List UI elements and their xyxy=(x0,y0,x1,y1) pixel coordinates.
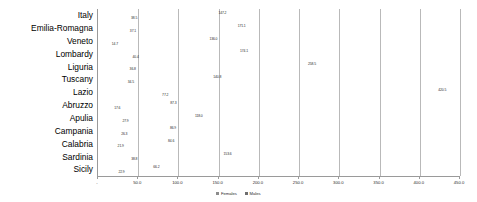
category-label-lazio: Lazio xyxy=(73,88,93,96)
category-label-liguria: Liguria xyxy=(68,63,93,71)
bar-females: 118.0 xyxy=(98,113,193,118)
bar-value-label-females: 171.1 xyxy=(238,24,246,28)
x-tick-mark xyxy=(177,176,178,179)
bar-value-label-males: 14.7 xyxy=(112,42,118,46)
bar-value-label-females: 118.0 xyxy=(195,114,203,118)
x-tick-mark xyxy=(419,176,420,179)
x-tick-label: 150.0 xyxy=(212,180,222,185)
category-label-abruzzo: Abruzzo xyxy=(62,101,93,109)
bar-value-label-females: 86.9 xyxy=(170,126,176,130)
x-tick-label: - xyxy=(96,180,97,185)
bar-females: 153.6 xyxy=(98,152,222,157)
bar-group: 66.222.9 xyxy=(98,163,459,176)
bar-group: 136.014.7 xyxy=(98,35,459,48)
bar-value-label-females: 153.6 xyxy=(224,152,232,156)
bar-males: 36.8 xyxy=(98,67,128,72)
bar-males: 38.5 xyxy=(98,16,129,21)
x-tick-mark xyxy=(218,176,219,179)
bar-value-label-females: 87.3 xyxy=(170,101,176,105)
bar-group: 118.027.9 xyxy=(98,112,459,125)
x-axis-line xyxy=(97,176,459,177)
x-tick-label: 400.0 xyxy=(414,180,424,185)
bar-females: 86.9 xyxy=(98,126,168,131)
legend-item-females[interactable]: Females xyxy=(216,191,237,196)
x-tick-mark xyxy=(137,176,138,179)
category-label-sardinia: Sardinia xyxy=(62,153,93,161)
bar-value-label-males: 27.9 xyxy=(122,119,128,123)
bar-males: 26.3 xyxy=(98,131,119,136)
bar-females: 174.1 xyxy=(98,49,238,54)
gridline xyxy=(460,9,461,176)
bar-females: 258.5 xyxy=(98,62,306,67)
category-label-tuscany: Tuscany xyxy=(62,75,93,83)
plot-area: 147.238.5171.137.1136.014.7174.140.4258.… xyxy=(97,9,459,176)
bar-value-label-females: 420.5 xyxy=(438,88,446,92)
bar-value-label-males: 17.6 xyxy=(114,106,120,110)
x-tick-label: 200.0 xyxy=(253,180,263,185)
chart-legend: FemalesMales xyxy=(0,191,477,196)
x-tick-label: 100.0 xyxy=(172,180,182,185)
bar-value-label-females: 84.6 xyxy=(168,139,174,143)
bar-value-label-females: 147.2 xyxy=(218,11,226,15)
bar-value-label-females: 66.2 xyxy=(153,165,159,169)
bar-males: 34.5 xyxy=(98,80,126,85)
bar-value-label-males: 22.9 xyxy=(118,170,124,174)
bar-group: 140.834.5 xyxy=(98,73,459,86)
bar-group: 420.577.2 xyxy=(98,86,459,99)
category-label-apulia: Apulia xyxy=(70,114,93,122)
x-tick-mark xyxy=(459,176,460,179)
category-label-sicily: Sicily xyxy=(73,165,93,173)
bar-group: 258.536.8 xyxy=(98,60,459,73)
bar-value-label-males: 77.2 xyxy=(162,93,168,97)
bar-value-label-males: 37.1 xyxy=(130,29,136,33)
category-label-lombardy: Lombardy xyxy=(56,50,93,58)
bar-males: 38.8 xyxy=(98,157,129,162)
bar-females: 84.6 xyxy=(98,139,166,144)
bar-females: 171.1 xyxy=(98,23,236,28)
bar-value-label-males: 38.8 xyxy=(131,157,137,161)
bar-value-label-males: 34.5 xyxy=(128,80,134,84)
category-label-veneto: Veneto xyxy=(67,37,93,45)
bar-group: 147.238.5 xyxy=(98,9,459,22)
bar-males: 27.9 xyxy=(98,118,120,123)
bar-value-label-females: 174.1 xyxy=(240,49,248,53)
x-tick-mark xyxy=(258,176,259,179)
x-tick-label: 300.0 xyxy=(333,180,343,185)
x-tick-mark xyxy=(298,176,299,179)
bar-females: 420.5 xyxy=(98,88,436,93)
bar-females: 136.0 xyxy=(98,36,207,41)
x-tick-mark xyxy=(338,176,339,179)
bar-group: 171.137.1 xyxy=(98,22,459,35)
bar-value-label-males: 26.3 xyxy=(121,132,127,136)
category-label-emilia-romagna: Emilia-Romagna xyxy=(31,24,93,32)
grouped-bar-chart: ItalyEmilia-RomagnaVenetoLombardyLiguria… xyxy=(0,0,477,202)
bar-females: 66.2 xyxy=(98,165,151,170)
bar-males: 14.7 xyxy=(98,41,110,46)
bar-value-label-males: 40.4 xyxy=(132,55,138,59)
bar-value-label-females: 140.8 xyxy=(213,75,221,79)
bar-value-label-males: 21.9 xyxy=(118,144,124,148)
bar-group: 87.317.6 xyxy=(98,99,459,112)
bar-group: 174.140.4 xyxy=(98,48,459,61)
y-axis-category-labels: ItalyEmilia-RomagnaVenetoLombardyLiguria… xyxy=(0,9,93,176)
legend-swatch-icon xyxy=(216,192,219,195)
bar-group: 86.926.3 xyxy=(98,125,459,138)
bar-males: 77.2 xyxy=(98,93,160,98)
bar-rows: 147.238.5171.137.1136.014.7174.140.4258.… xyxy=(98,9,459,176)
bar-males: 37.1 xyxy=(98,29,128,34)
x-tick-label: 450.0 xyxy=(454,180,464,185)
x-tick-mark xyxy=(97,176,98,179)
bar-value-label-females: 136.0 xyxy=(209,37,217,41)
bar-value-label-males: 38.5 xyxy=(131,16,137,20)
bar-value-label-females: 258.5 xyxy=(308,62,316,66)
x-tick-mark xyxy=(379,176,380,179)
bar-males: 21.9 xyxy=(98,144,116,149)
legend-label: Males xyxy=(249,191,260,196)
category-label-campania: Campania xyxy=(55,127,93,135)
bar-males: 22.9 xyxy=(98,170,116,175)
legend-item-males[interactable]: Males xyxy=(245,191,261,196)
bar-value-label-males: 36.8 xyxy=(130,67,136,71)
x-tick-label: 350.0 xyxy=(373,180,383,185)
x-axis: -50.0100.0150.0200.0250.0300.0350.0400.0… xyxy=(97,176,459,190)
bar-females: 140.8 xyxy=(98,75,211,80)
